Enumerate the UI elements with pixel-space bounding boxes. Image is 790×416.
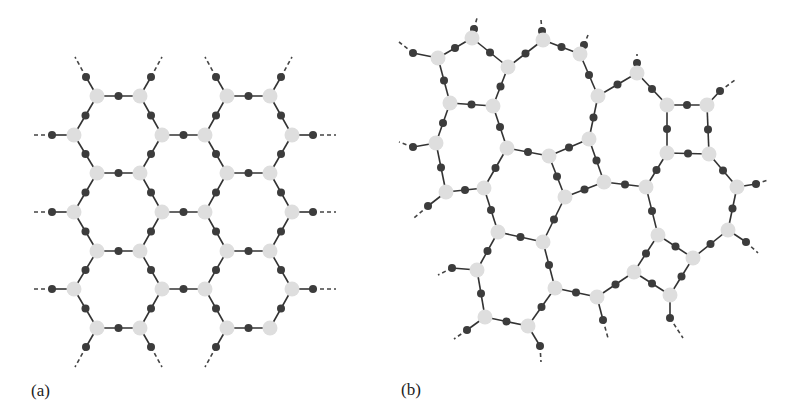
light-atom [439,185,454,200]
dark-atom [517,233,525,241]
dark-atom [550,216,558,224]
light-atom [501,60,516,75]
dark-atom [492,164,500,172]
light-atom [700,98,715,113]
dark-atom [672,243,680,251]
light-atom [536,235,551,250]
light-atom [521,319,536,334]
dark-atom [581,186,589,194]
dark-atom [621,181,629,189]
panel-b-label: (b) [401,380,421,400]
dark-atom [409,143,417,151]
light-atom [627,265,642,280]
dark-atom [468,101,476,109]
dark-atom [585,71,593,79]
light-atom [702,147,717,162]
dark-atom [538,303,546,311]
light-atom [721,223,736,238]
light-atom [542,149,557,164]
dark-atom [503,318,511,326]
light-atom [686,251,701,266]
light-atom [429,136,444,151]
dark-atom [612,281,620,289]
dark-atom [648,280,656,288]
dark-atom [461,186,469,194]
light-atom [478,310,493,325]
dark-atom [497,83,505,91]
dark-atom [593,157,601,165]
light-atom [536,33,551,48]
light-atom [431,51,446,66]
dark-atom [424,202,432,210]
light-atom [558,190,573,205]
light-atom [491,225,506,240]
dark-atom [463,326,471,334]
dark-atom [565,144,573,152]
light-atom [500,141,515,156]
dark-atom [484,247,492,255]
light-atom [573,47,588,62]
panel-b-random-network [0,0,790,416]
dark-atom [437,164,445,172]
dark-atom [590,114,598,122]
dark-atom [524,148,532,156]
dark-atom [663,125,671,133]
panel-a-label: (a) [31,381,50,401]
dark-atom [599,316,607,324]
light-atom [470,263,485,278]
dark-atom [439,119,447,127]
light-atom [591,89,606,104]
dark-atom [614,81,622,89]
light-atom [477,181,492,196]
light-atom [597,175,612,190]
dark-atom [477,290,485,298]
light-atom [651,228,666,243]
light-atom [465,31,480,46]
dark-atom [487,206,495,214]
light-atom [548,281,563,296]
dark-atom [752,180,760,188]
dark-atom [684,150,692,158]
dark-atom [553,173,561,181]
light-atom [730,180,745,195]
dark-atom [536,342,544,350]
dark-atom [666,314,674,322]
dark-atom [642,250,650,258]
dark-atom [572,289,580,297]
light-atom [663,288,678,303]
dark-atom [440,77,448,85]
dark-atom [451,44,459,52]
figure: (a) (b) [0,0,790,416]
dark-atom [707,240,715,248]
dark-atom [409,49,417,57]
dark-atom [704,126,712,134]
dark-atom [683,101,691,109]
light-atom [630,66,645,81]
dark-atom [653,166,661,174]
light-atom [486,99,501,114]
dark-atom [486,49,494,57]
dark-atom [558,43,566,51]
light-atom [660,146,675,161]
dark-atom [648,85,656,93]
light-atom [660,98,675,113]
light-atom [590,290,605,305]
dark-atom [742,238,750,246]
dark-atom [448,264,456,272]
dark-atom [545,261,553,269]
dark-atom [522,50,530,58]
dark-atom [719,167,727,175]
dark-atom [678,273,686,281]
dark-atom [496,123,504,131]
dark-atom [648,207,656,215]
light-atom [639,180,654,195]
dark-atom-layer [409,25,760,350]
dark-atom [729,205,737,213]
dark-atom [716,87,724,95]
light-atom [443,96,458,111]
light-atom [582,132,597,147]
